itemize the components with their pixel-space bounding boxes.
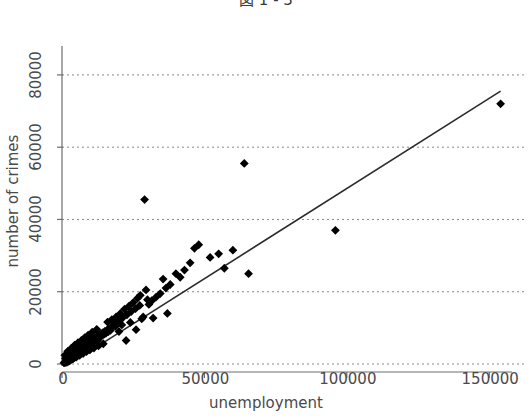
y-tick-label-text-0: 0 bbox=[27, 359, 45, 369]
data-point bbox=[132, 325, 141, 334]
data-point bbox=[206, 253, 215, 262]
x-axis-ticks bbox=[62, 372, 489, 378]
data-point bbox=[186, 258, 195, 267]
data-point bbox=[240, 159, 249, 168]
data-point bbox=[220, 264, 229, 273]
data-point bbox=[180, 266, 189, 275]
x-tick-label-3: 150000 bbox=[489, 370, 491, 390]
x-tick-label-text-0: 0 bbox=[58, 370, 68, 388]
x-axis-label: unemployment bbox=[0, 394, 532, 412]
data-point bbox=[140, 195, 149, 204]
data-point bbox=[142, 286, 151, 295]
x-tick-label-text-2: 100000 bbox=[319, 370, 376, 388]
y-tick-label-text-3: 60000 bbox=[27, 123, 45, 171]
y-tick-label-2: 40000 bbox=[26, 209, 46, 229]
data-point bbox=[163, 309, 172, 318]
data-point bbox=[122, 336, 131, 345]
data-point bbox=[149, 314, 158, 323]
chart-figure: 図 1 - 3 number of crimes unemployment 02… bbox=[0, 0, 532, 418]
data-points bbox=[60, 99, 505, 367]
x-tick-label-1: 50000 bbox=[204, 370, 206, 390]
data-point bbox=[244, 269, 253, 278]
y-tick-label-text-2: 40000 bbox=[27, 196, 45, 244]
x-tick-label-text-3: 150000 bbox=[462, 370, 519, 388]
y-axis-label-wrap: number of crimes bbox=[2, 96, 24, 306]
y-tick-label-3: 60000 bbox=[26, 137, 46, 157]
data-point bbox=[214, 249, 223, 258]
y-tick-label-1: 20000 bbox=[26, 282, 46, 302]
x-tick-label-text-1: 50000 bbox=[182, 370, 230, 388]
scatter-plot-svg bbox=[0, 0, 532, 418]
y-tick-label-0: 0 bbox=[26, 354, 46, 374]
y-axis-label: number of crimes bbox=[4, 135, 22, 268]
data-point bbox=[126, 318, 135, 327]
data-point bbox=[331, 226, 340, 235]
x-tick-label-0: 0 bbox=[62, 370, 64, 390]
y-tick-label-text-1: 20000 bbox=[27, 268, 45, 316]
y-tick-label-text-4: 80000 bbox=[27, 51, 45, 99]
data-point bbox=[228, 246, 237, 255]
y-tick-label-4: 80000 bbox=[26, 65, 46, 85]
data-point bbox=[159, 275, 168, 284]
data-point bbox=[496, 99, 505, 108]
x-tick-label-2: 100000 bbox=[347, 370, 349, 390]
